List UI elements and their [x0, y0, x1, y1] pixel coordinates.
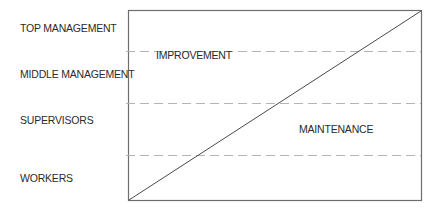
level-label-middle-management: MIDDLE MANAGEMENT — [20, 68, 134, 80]
region-label-maintenance: MAINTENANCE — [299, 123, 373, 135]
level-label-workers: WORKERS — [20, 172, 73, 184]
level-label-top-management: TOP MANAGEMENT — [20, 22, 117, 34]
level-label-supervisors: SUPERVISORS — [20, 114, 93, 126]
region-label-improvement: IMPROVEMENT — [156, 49, 232, 61]
diagonal-split-line — [129, 11, 421, 200]
